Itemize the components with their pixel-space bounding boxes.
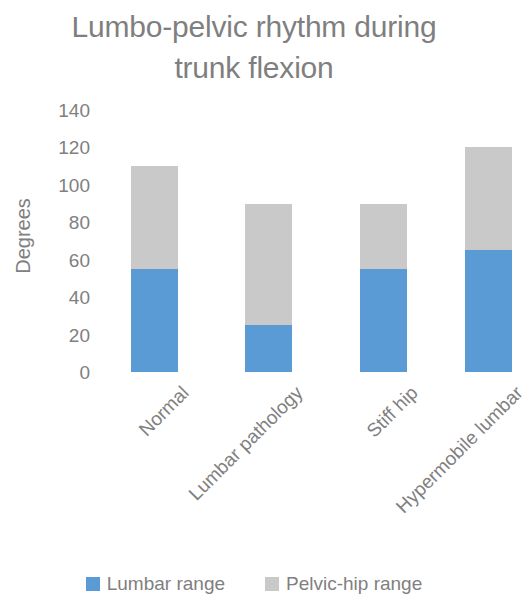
bar-segment-lumbar-range[interactable] [131,269,178,372]
y-axis-tick-120: 120 [38,138,90,157]
bar-segment-pelvic-hip-range[interactable] [131,166,178,269]
y-axis-tick-60: 60 [38,251,90,270]
y-axis-tick-20: 20 [38,326,90,345]
bar-column-stiff-hip[interactable] [360,204,407,372]
y-axis-tick-80: 80 [38,213,90,232]
legend-label: Lumbar range [107,573,225,594]
plot-area [96,110,508,372]
legend-swatch-icon [86,577,100,591]
y-axis-tick-100: 100 [38,176,90,195]
y-axis-tick-140: 140 [38,101,90,120]
bar-column-hypermobile-lumbar[interactable] [465,147,512,372]
x-axis-category-labels: NormalLumbar pathologyStiff hipHypermobi… [0,372,508,537]
legend-label: Pelvic-hip range [286,573,422,594]
bar-segment-pelvic-hip-range[interactable] [465,147,512,250]
bar-segment-lumbar-range[interactable] [465,250,512,372]
bar-column-lumbar-pathology[interactable] [245,204,292,372]
y-axis-title: Degrees [12,196,34,276]
bar-segment-pelvic-hip-range[interactable] [245,204,292,326]
chart-legend: Lumbar rangePelvic-hip range [0,573,508,594]
bar-segment-lumbar-range[interactable] [245,325,292,372]
y-axis-tick-40: 40 [38,288,90,307]
legend-item[interactable]: Lumbar range [86,573,225,594]
legend-item[interactable]: Pelvic-hip range [265,573,422,594]
bar-segment-pelvic-hip-range[interactable] [360,204,407,270]
bar-segment-lumbar-range[interactable] [360,269,407,372]
bar-column-normal[interactable] [131,166,178,372]
legend-swatch-icon [265,577,279,591]
